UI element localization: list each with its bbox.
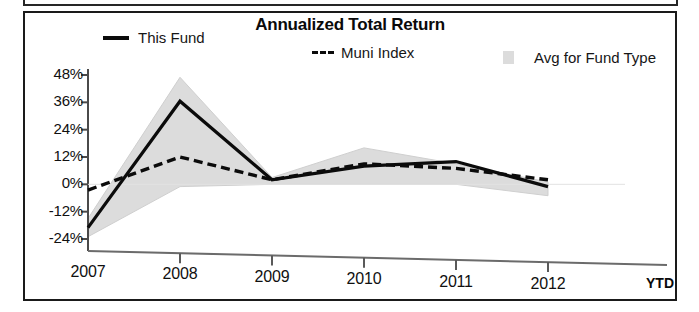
x-axis-tick-label: 2007 (56, 263, 120, 281)
y-axis-tick-label: 36% (25, 92, 83, 109)
annualized-total-return-chart-panel: Annualized Total Return This Fund Muni I… (23, 11, 677, 301)
y-axis-tick-label: -24% (25, 229, 83, 246)
x-axis-tick-label: 2012 (516, 275, 580, 293)
y-axis-tick-label: 24% (25, 120, 83, 137)
y-axis-tick-label: 48% (25, 65, 83, 82)
x-axis-tick-label: 2010 (332, 270, 396, 288)
x-axis-tick-label: 2009 (240, 268, 304, 286)
x-axis-ytd-suffix: YTD (646, 275, 674, 291)
y-axis-tick-label: -12% (25, 202, 83, 219)
x-axis-tick-label: 2008 (148, 265, 212, 283)
plot-area (25, 13, 679, 303)
avg-for-fund-type-band (88, 77, 548, 236)
x-axis-tick-label: 2011 (424, 273, 488, 291)
plot-svg (25, 13, 679, 303)
y-axis-tick-label: 0% (25, 174, 83, 191)
y-axis-tick-label: 12% (25, 147, 83, 164)
clipped-upper-frame (23, 0, 678, 6)
